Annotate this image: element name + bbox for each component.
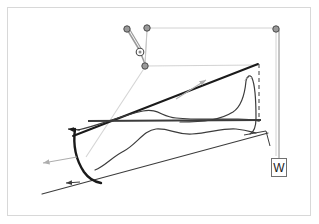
arrow-upslope (176, 80, 206, 99)
linkage-bars (128, 30, 147, 64)
node-top-left[interactable] (124, 26, 130, 32)
w-label-box: W (271, 158, 287, 177)
arrows (43, 80, 206, 183)
arrow-arc-head (68, 129, 80, 130)
guide-bottom-edge (145, 65, 258, 66)
link-topleft-to-ring-a (128, 31, 140, 51)
horizontal-datum-line (88, 120, 261, 121)
w-leader-group (244, 30, 279, 158)
node-ring-inner (139, 51, 142, 54)
node-top-right[interactable] (273, 26, 279, 32)
breaking-wave-arc (74, 129, 101, 183)
diagram-svg (0, 0, 319, 224)
w-label-text: W (273, 162, 284, 174)
wave-profiles (74, 64, 259, 183)
node-top-mid[interactable] (144, 25, 150, 31)
node-lower[interactable] (142, 63, 148, 69)
arrow-base-head (66, 182, 80, 183)
link-topleft-to-ring-b (130, 30, 142, 50)
link-topmid-to-lower (145, 31, 147, 63)
incline-lower-line (42, 133, 268, 194)
nodes (124, 25, 279, 69)
guide-lines (86, 28, 276, 157)
wave-profile-lower (95, 129, 256, 170)
incline-upper-line (73, 64, 258, 136)
screenshot-canvas: W (0, 0, 319, 224)
arrow-downslope (43, 157, 77, 163)
right-surge-curve (180, 76, 256, 134)
